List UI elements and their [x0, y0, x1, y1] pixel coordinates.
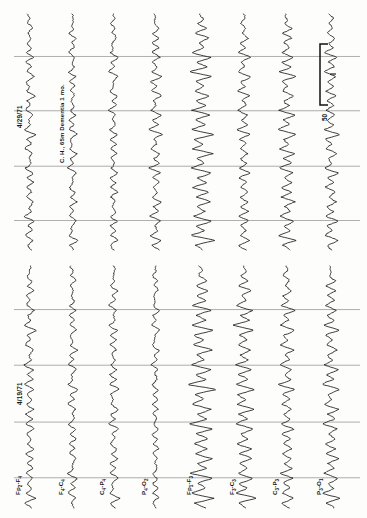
- eeg-trace: [324, 14, 339, 250]
- eeg-trace: [278, 266, 295, 508]
- eeg-trace: [149, 14, 163, 250]
- eeg-trace: [278, 14, 296, 250]
- channel-label-c4-p4: C4-P4: [98, 478, 107, 495]
- channel-label-fp2-f4: Fp2-F4: [14, 476, 23, 495]
- channel-label-c3-p3: C3-P3: [271, 478, 280, 495]
- eeg-trace: [24, 266, 36, 508]
- channel-label-p3-o1: P3-O1: [315, 478, 324, 495]
- channel-label-fp1-f3: Fp1-F3: [185, 476, 194, 495]
- eeg-trace: [67, 14, 78, 250]
- eeg-trace: [237, 14, 250, 250]
- patient-annotation: C. H., 65m Dementia 1 mo.: [59, 84, 65, 163]
- gridlines-group: [14, 56, 360, 477]
- eeg-trace: [233, 266, 256, 508]
- eeg-traces-group: [24, 14, 340, 508]
- date-label-panel-left: 4/19/71: [16, 382, 23, 405]
- eeg-recording-canvas: 50 4/29/71 C. H., 65m Dementia 1 mo. 4/1…: [0, 0, 367, 518]
- eeg-trace: [151, 266, 160, 508]
- channel-labels-group: Fp2-F4F4-C4C4-P4P4-O2Fp1-F3F3-C3C3-P3P3-…: [14, 476, 324, 495]
- channel-label-f4-c4: F4-C4: [57, 479, 66, 495]
- eeg-trace: [189, 266, 216, 508]
- date-label-panel-right: 4/29/71: [16, 105, 23, 128]
- eeg-trace: [323, 266, 340, 508]
- eeg-figure-sheet: 50 4/29/71 C. H., 65m Dementia 1 mo. 4/1…: [0, 0, 367, 518]
- eeg-trace: [24, 14, 36, 250]
- eeg-trace: [108, 14, 118, 250]
- eeg-trace: [109, 266, 120, 508]
- channel-label-f3-c3: F3-C3: [228, 479, 237, 495]
- calibration-value-label: 50: [321, 113, 328, 121]
- eeg-trace: [68, 266, 78, 508]
- eeg-trace: [190, 14, 215, 250]
- channel-label-p4-o2: P4-O2: [140, 478, 149, 495]
